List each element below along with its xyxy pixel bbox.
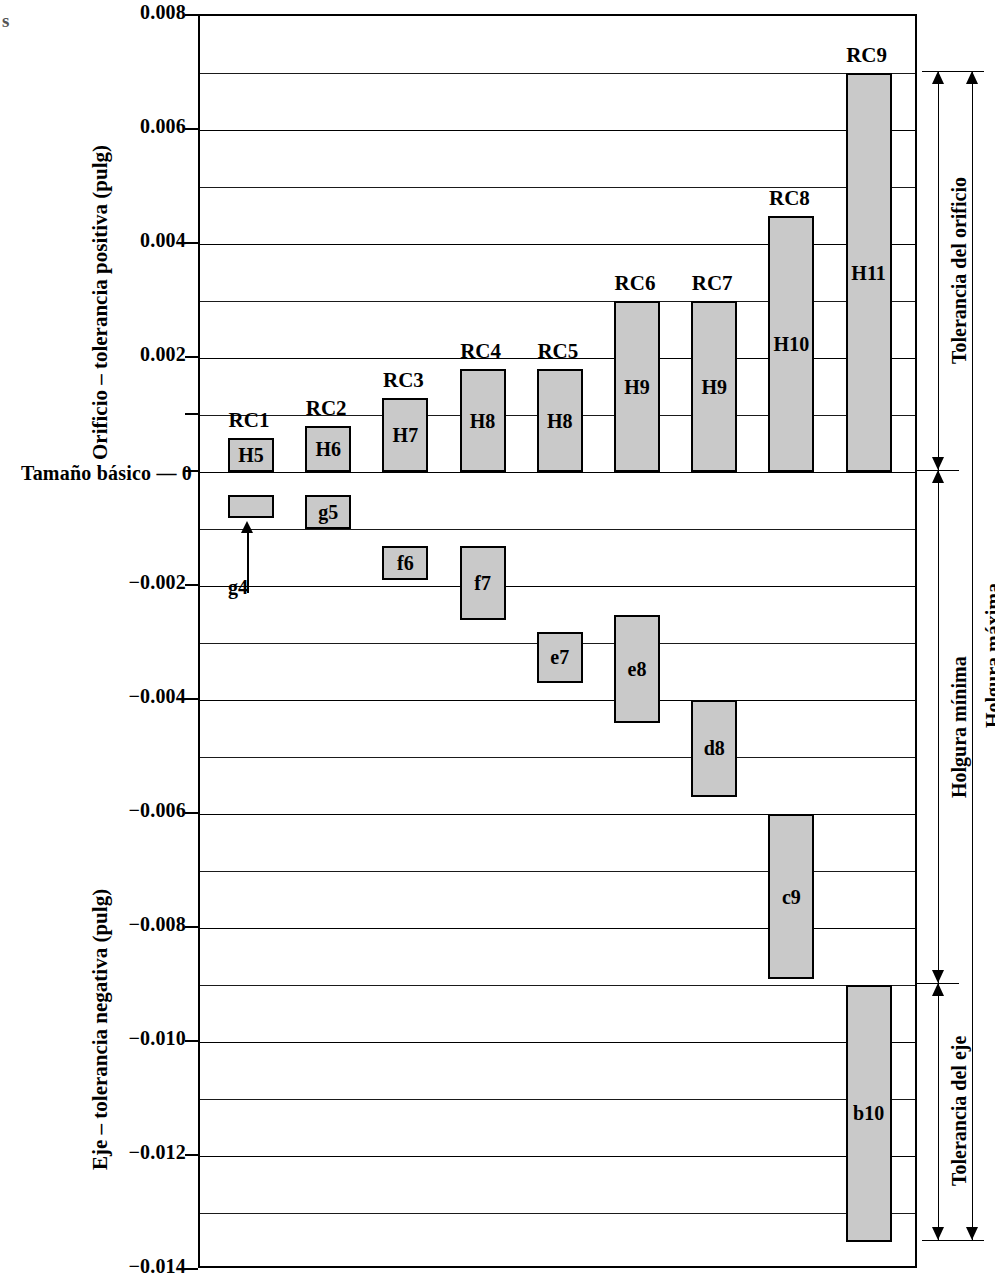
hole-tolerance-bar[interactable]: H6: [305, 426, 351, 472]
shaft-bar-label: d8: [704, 738, 725, 758]
hole-bar-label: H10: [774, 334, 810, 354]
y-tick-label: −0.008: [0, 913, 186, 936]
y-tick-label: 0.008: [0, 1, 186, 24]
rc-group-label: RC7: [677, 271, 747, 296]
rc-group-label: RC5: [523, 339, 593, 364]
hole-bar-label: H8: [547, 411, 573, 431]
hole-tolerance-bar[interactable]: H9: [691, 301, 737, 472]
y-axis-title-positive: Orificio – tolerancia positiva (pulg): [88, 145, 113, 460]
shaft-tolerance-bar[interactable]: [228, 495, 274, 518]
rc-group-label: RC8: [754, 186, 824, 211]
shaft-tolerance-arrow-down: [932, 1227, 944, 1240]
y-tick-label: −0.014: [0, 1255, 186, 1278]
y-tick-label: −0.010: [0, 1027, 186, 1050]
gridline: [200, 1156, 915, 1157]
gridline: [200, 700, 915, 701]
max-clearance-arrow-down: [966, 1227, 978, 1240]
tolerance-chart: s Orificio – tolerancia positiva (pulg) …: [0, 0, 995, 1287]
max-clearance-annotation-label: Holgura máxima: [982, 579, 995, 732]
hole-bar-label: H9: [701, 377, 727, 397]
hole-tolerance-bar[interactable]: H8: [537, 369, 583, 472]
shaft-tolerance-bar[interactable]: f6: [382, 546, 428, 580]
y-tick-mark: [185, 1268, 198, 1270]
y-tick-mark: [185, 356, 198, 358]
gridline: [200, 529, 915, 530]
gridline: [200, 73, 915, 74]
max-clearance-arrow-up: [966, 71, 978, 84]
rc-group-label: RC4: [446, 339, 516, 364]
rc-group-label: RC9: [832, 43, 902, 68]
rc-group-label: RC3: [368, 368, 438, 393]
gridline: [200, 985, 915, 986]
shaft-tolerance-stem: [938, 983, 939, 1240]
basic-size-label: Tamaño básico — 0: [0, 462, 192, 485]
shaft-tolerance-bar[interactable]: e7: [537, 632, 583, 683]
hole-tolerance-arrow-up: [932, 71, 944, 84]
y-tick-label: −0.006: [0, 799, 186, 822]
shaft-bar-label: e8: [628, 659, 647, 679]
gridline: [200, 757, 915, 758]
gridline: [200, 1042, 915, 1043]
shaft-tolerance-bar[interactable]: c9: [768, 814, 814, 979]
hole-tolerance-bar[interactable]: H7: [382, 398, 428, 472]
min-clearance-annotation-label: Holgura mínima: [948, 652, 971, 802]
shaft-bar-label: f6: [397, 553, 414, 573]
rc-group-label: RC2: [291, 396, 361, 421]
shaft-tolerance-bar[interactable]: e8: [614, 615, 660, 723]
y-tick-mark: [185, 584, 198, 586]
min-clearance-stem: [938, 470, 939, 983]
hole-tolerance-bar[interactable]: H9: [614, 301, 660, 472]
y-tick-mark: [185, 812, 198, 814]
y-tick-mark: [185, 926, 198, 928]
shaft-bar-label: b10: [853, 1103, 884, 1123]
shaft-tolerance-bar[interactable]: b10: [846, 985, 892, 1242]
hole-bar-label: H6: [315, 439, 341, 459]
hole-tolerance-bar[interactable]: H5: [228, 438, 274, 472]
annotation-cap-bottom: [922, 1240, 984, 1241]
g4-callout-arrowhead: [241, 521, 253, 533]
hole-tolerance-bar[interactable]: H8: [460, 369, 506, 472]
hole-bar-label: H11: [851, 263, 885, 283]
min-clearance-arrow-up: [932, 470, 944, 483]
shaft-bar-label: e7: [550, 647, 569, 667]
shaft-tolerance-arrow-up: [932, 983, 944, 996]
hole-bar-label: H8: [470, 411, 496, 431]
gridline: [200, 1099, 915, 1100]
hole-tolerance-bar[interactable]: H10: [768, 216, 814, 473]
hole-tolerance-annotation-label: Tolerancia del orificio: [948, 173, 971, 368]
hole-bar-label: H9: [624, 377, 650, 397]
hole-bar-label: H5: [238, 445, 264, 465]
shaft-bar-label: c9: [782, 887, 801, 907]
shaft-bar-label: f7: [474, 573, 491, 593]
shaft-tolerance-bar[interactable]: d8: [691, 700, 737, 797]
g4-callout-label: g4: [228, 576, 248, 599]
gridline: [200, 130, 915, 131]
shaft-tolerance-bar[interactable]: f7: [460, 546, 506, 620]
y-tick-label: −0.012: [0, 1141, 186, 1164]
min-clearance-arrow-down: [932, 970, 944, 983]
hole-tolerance-stem: [938, 71, 939, 470]
gridline: [200, 1213, 915, 1214]
rc-group-label: RC1: [214, 408, 284, 433]
y-tick-mark: [185, 1154, 198, 1156]
y-tick-mark-minor: [185, 413, 198, 415]
hole-tolerance-bar[interactable]: H11: [846, 73, 892, 472]
shaft-tolerance-annotation-label: Tolerancia del eje: [948, 1032, 971, 1190]
y-tick-label: 0.006: [0, 115, 186, 138]
y-tick-mark: [185, 14, 198, 16]
y-tick-label: −0.004: [0, 685, 186, 708]
y-tick-mark: [185, 698, 198, 700]
hole-tolerance-arrow-down: [932, 457, 944, 470]
y-tick-label: 0.004: [0, 229, 186, 252]
shaft-tolerance-bar[interactable]: g5: [305, 495, 351, 529]
y-tick-mark: [185, 1040, 198, 1042]
shaft-bar-label: g5: [318, 502, 338, 522]
y-tick-label: −0.002: [0, 571, 186, 594]
y-tick-mark: [185, 128, 198, 130]
max-clearance-stem: [972, 71, 973, 1240]
y-tick-mark: [185, 470, 198, 472]
y-tick-mark: [185, 242, 198, 244]
rc-group-label: RC6: [600, 271, 670, 296]
y-tick-label: 0.002: [0, 343, 186, 366]
gridline: [200, 472, 915, 473]
